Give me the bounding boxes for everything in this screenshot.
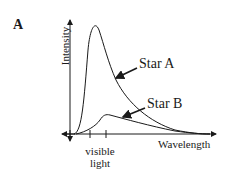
visible-light-label: visible light: [80, 145, 120, 169]
visible-light-text: visible light: [85, 145, 114, 169]
star-a-curve: [74, 26, 210, 134]
star-b-label: Star B: [147, 96, 182, 112]
star-b-curve: [76, 115, 210, 134]
star-a-arrow: [116, 68, 137, 78]
y-axis-label: Intensity: [59, 26, 71, 66]
star-a-label: Star A: [139, 56, 174, 72]
x-axis-label: Wavelength: [158, 138, 210, 150]
